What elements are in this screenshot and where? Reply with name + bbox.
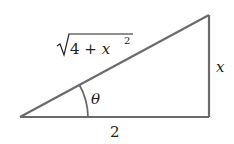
hypotenuse-exponent: 2 [124,35,130,46]
right-triangle-diagram: 4 + x 2 θ 2 x [0,0,234,144]
hypotenuse-radicand-a: 4 + [70,40,102,58]
angle-arc [80,85,89,117]
opposite-label: x [216,58,225,76]
angle-label: θ [91,90,100,108]
hypotenuse-label: 4 + x 2 [57,34,133,58]
hypotenuse-variable: x [102,40,111,58]
triangle [20,15,209,117]
hypotenuse-side [20,15,209,117]
adjacent-label: 2 [110,123,120,141]
svg-text:4 + x: 4 + x [70,40,111,58]
